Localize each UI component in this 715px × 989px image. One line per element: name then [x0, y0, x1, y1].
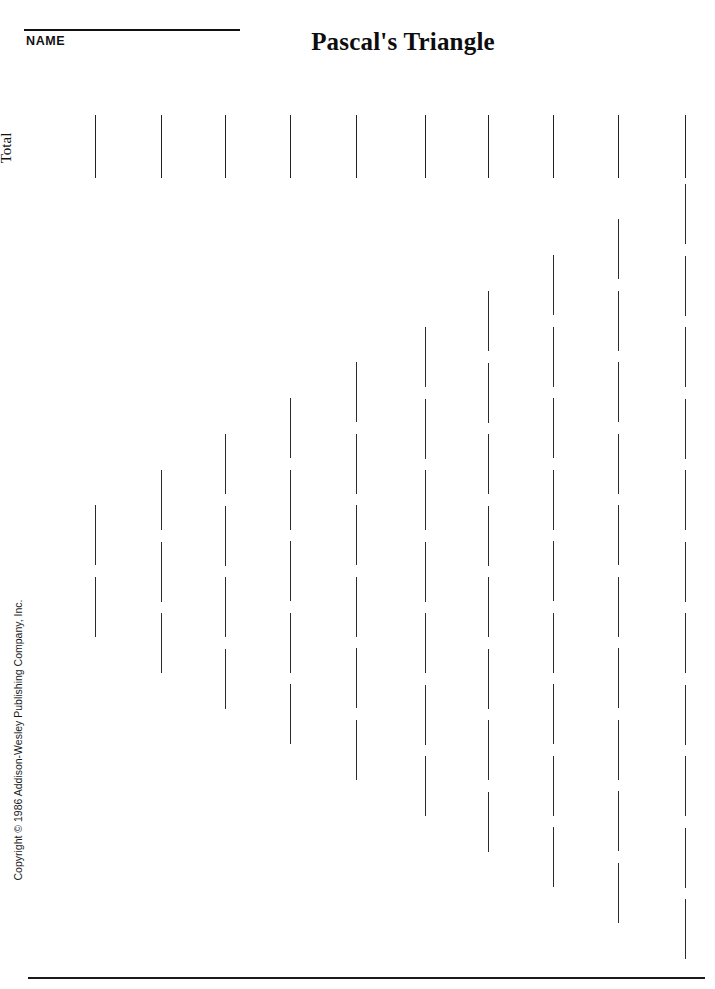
triangle-entry-blank[interactable]	[290, 541, 291, 601]
triangle-entry-blank[interactable]	[685, 542, 686, 602]
total-blank[interactable]	[225, 115, 226, 178]
triangle-entry-blank[interactable]	[425, 327, 426, 387]
triangle-entry-blank[interactable]	[425, 399, 426, 459]
triangle-entry-blank[interactable]	[553, 827, 554, 887]
total-blank[interactable]	[95, 115, 96, 178]
triangle-entry-blank[interactable]	[685, 756, 686, 816]
triangle-entry-blank[interactable]	[553, 398, 554, 458]
page-title: Pascal's Triangle	[253, 28, 553, 56]
triangle-entry-blank[interactable]	[618, 362, 619, 422]
triangle-entry-blank[interactable]	[553, 327, 554, 387]
triangle-entry-blank[interactable]	[488, 506, 489, 566]
triangle-entry-blank[interactable]	[553, 255, 554, 315]
triangle-entry-blank[interactable]	[161, 613, 162, 673]
triangle-entry-blank[interactable]	[618, 291, 619, 351]
total-blank[interactable]	[290, 115, 291, 178]
triangle-entry-blank[interactable]	[553, 684, 554, 744]
triangle-entry-blank[interactable]	[685, 685, 686, 745]
triangle-entry-blank[interactable]	[685, 899, 686, 959]
triangle-entry-blank[interactable]	[685, 256, 686, 316]
triangle-entry-blank[interactable]	[553, 541, 554, 601]
triangle-entry-blank[interactable]	[685, 828, 686, 888]
triangle-entry-blank[interactable]	[161, 470, 162, 530]
triangle-entry-blank[interactable]	[685, 327, 686, 387]
triangle-entry-blank[interactable]	[618, 505, 619, 565]
name-label: NAME	[26, 34, 65, 48]
triangle-entry-blank[interactable]	[225, 577, 226, 637]
triangle-entry-blank[interactable]	[685, 613, 686, 673]
triangle-entry-blank[interactable]	[553, 470, 554, 530]
triangle-entry-blank[interactable]	[425, 542, 426, 602]
triangle-entry-blank[interactable]	[225, 649, 226, 709]
triangle-entry-blank[interactable]	[618, 863, 619, 923]
total-blank[interactable]	[685, 115, 686, 178]
total-blank[interactable]	[161, 115, 162, 178]
triangle-entry-blank[interactable]	[425, 685, 426, 745]
triangle-entry-blank[interactable]	[488, 291, 489, 351]
copyright-notice: Copyright © 1986 Addison-Wesley Publishi…	[12, 540, 24, 940]
triangle-entry-blank[interactable]	[685, 399, 686, 459]
triangle-entry-blank[interactable]	[488, 792, 489, 852]
total-blank[interactable]	[356, 115, 357, 178]
triangle-entry-blank[interactable]	[95, 577, 96, 637]
triangle-entry-blank[interactable]	[290, 613, 291, 673]
triangle-entry-blank[interactable]	[356, 362, 357, 422]
triangle-entry-blank[interactable]	[618, 720, 619, 780]
total-blank[interactable]	[618, 115, 619, 178]
triangle-entry-blank[interactable]	[618, 219, 619, 279]
triangle-entry-blank[interactable]	[488, 434, 489, 494]
triangle-entry-blank[interactable]	[685, 184, 686, 244]
triangle-entry-blank[interactable]	[225, 506, 226, 566]
triangle-entry-blank[interactable]	[356, 434, 357, 494]
triangle-entry-blank[interactable]	[290, 398, 291, 458]
triangle-entry-blank[interactable]	[685, 470, 686, 530]
triangle-entry-blank[interactable]	[425, 470, 426, 530]
total-blank[interactable]	[488, 115, 489, 178]
triangle-entry-blank[interactable]	[553, 756, 554, 816]
triangle-entry-blank[interactable]	[425, 756, 426, 816]
worksheet-page: NAME Pascal's Triangle Total Copyright ©…	[0, 0, 715, 989]
footer-divider	[28, 977, 705, 979]
triangle-entry-blank[interactable]	[618, 577, 619, 637]
triangle-entry-blank[interactable]	[488, 577, 489, 637]
triangle-entry-blank[interactable]	[488, 649, 489, 709]
triangle-entry-blank[interactable]	[161, 542, 162, 602]
total-blank[interactable]	[425, 115, 426, 178]
triangle-entry-blank[interactable]	[225, 434, 226, 494]
triangle-entry-blank[interactable]	[356, 720, 357, 780]
triangle-entry-blank[interactable]	[356, 648, 357, 708]
triangle-entry-blank[interactable]	[488, 363, 489, 423]
triangle-entry-blank[interactable]	[425, 613, 426, 673]
triangle-entry-blank[interactable]	[290, 684, 291, 744]
triangle-entry-blank[interactable]	[618, 791, 619, 851]
triangle-entry-blank[interactable]	[618, 648, 619, 708]
triangle-entry-blank[interactable]	[356, 505, 357, 565]
total-blank[interactable]	[553, 115, 554, 178]
triangle-entry-blank[interactable]	[553, 613, 554, 673]
triangle-entry-blank[interactable]	[618, 434, 619, 494]
triangle-entry-blank[interactable]	[356, 577, 357, 637]
triangle-entry-blank[interactable]	[95, 505, 96, 565]
total-axis-label: Total	[0, 118, 15, 178]
triangle-entry-blank[interactable]	[290, 470, 291, 530]
name-write-in-line[interactable]	[24, 29, 240, 31]
triangle-entry-blank[interactable]	[488, 720, 489, 780]
